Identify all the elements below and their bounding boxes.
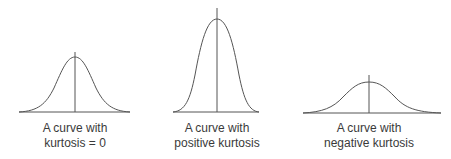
curve-kurtosis-negative (303, 75, 441, 113)
caption-line-1: A curve with (304, 121, 434, 136)
curve-kurtosis-positive (173, 8, 259, 112)
caption-line-1: A curve with (152, 121, 282, 136)
bell-curve (173, 19, 259, 112)
kurtosis-diagram: A curve with kurtosis = 0 A curve with p… (0, 0, 451, 159)
caption-kurtosis-positive: A curve with positive kurtosis (152, 121, 282, 151)
curve-kurtosis-zero (19, 52, 130, 112)
caption-line-2: negative kurtosis (304, 136, 434, 151)
caption-line-1: A curve with (10, 121, 140, 136)
caption-kurtosis-negative: A curve with negative kurtosis (304, 121, 434, 151)
bell-curve (303, 82, 441, 113)
caption-kurtosis-zero: A curve with kurtosis = 0 (10, 121, 140, 151)
caption-line-2: positive kurtosis (152, 136, 282, 151)
caption-line-2: kurtosis = 0 (10, 136, 140, 151)
